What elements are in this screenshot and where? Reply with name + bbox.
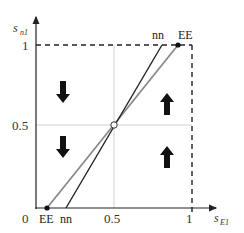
y-axis-label: s — [13, 21, 18, 35]
arrow-down-icon — [56, 136, 70, 158]
y-tick-1: 1 — [22, 38, 29, 53]
x-axis-label: s — [214, 211, 219, 225]
ee-endpoint-bottom — [44, 205, 49, 210]
x-tick-half: 0.5 — [104, 211, 120, 226]
arrow-down-icon — [56, 81, 70, 103]
y-tick-half: 0.5 — [12, 118, 28, 133]
ee-endpoint-top — [175, 42, 180, 47]
x-axis-subscript: E1 — [219, 218, 229, 227]
y-tick-0: 0 — [22, 211, 29, 226]
ee-label-bottom: EE — [39, 212, 54, 226]
nn-label-bottom: nn — [60, 212, 72, 226]
ee-label-top: EE — [178, 28, 193, 42]
nn-label-top: nn — [152, 28, 164, 42]
arrow-up-icon — [160, 93, 174, 115]
phase-diagram: 1 0.5 0 0.5 1 s n1 s E1 nn EE EE nn — [0, 0, 244, 233]
x-tick-1: 1 — [186, 211, 193, 226]
y-axis-subscript: n1 — [20, 28, 28, 37]
fixed-point-marker — [111, 122, 117, 128]
arrow-up-icon — [160, 146, 174, 168]
